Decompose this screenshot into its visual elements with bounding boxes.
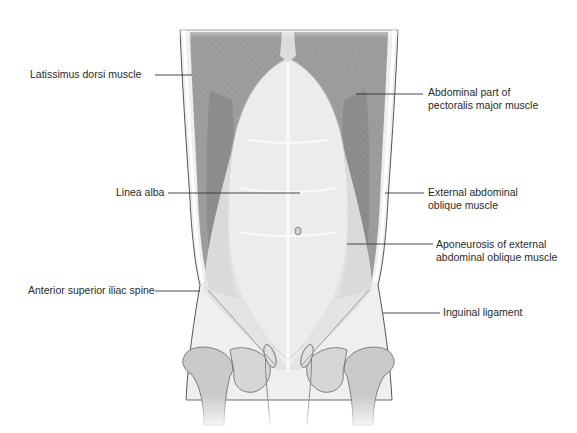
label-linea-alba: Linea alba <box>116 186 164 199</box>
label-pectoralis-line2: pectoralis major muscle <box>428 99 538 112</box>
label-aponeurosis-line1: Aponeurosis of external <box>436 238 557 251</box>
label-aponeurosis-line2: abdominal oblique muscle <box>436 251 557 264</box>
label-aponeurosis: Aponeurosis of external abdominal obliqu… <box>436 238 557 264</box>
anatomy-illustration <box>0 0 577 433</box>
label-latissimus-dorsi: Latissimus dorsi muscle <box>30 68 141 81</box>
label-external-oblique: External abdominal oblique muscle <box>428 186 518 212</box>
label-inguinal-ligament: Inguinal ligament <box>443 306 522 319</box>
label-anterior-superior-iliac-spine: Anterior superior iliac spine <box>28 284 155 297</box>
label-pectoralis-line1: Abdominal part of <box>428 86 538 99</box>
umbilicus <box>295 227 301 235</box>
label-ext-oblique-line2: oblique muscle <box>428 199 518 212</box>
label-ext-oblique-line1: External abdominal <box>428 186 518 199</box>
label-pectoralis-major: Abdominal part of pectoralis major muscl… <box>428 86 538 112</box>
